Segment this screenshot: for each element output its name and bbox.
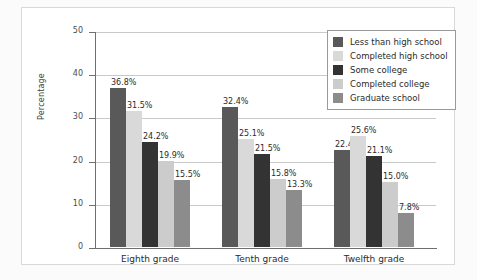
legend-label: Graduate school: [350, 94, 420, 103]
y-axis-tick-label: 0: [53, 243, 83, 251]
legend-label: Less than high school: [350, 38, 442, 47]
legend-item[interactable]: Completed high school: [333, 49, 448, 63]
y-axis-tick-label-wrap: 20: [53, 157, 83, 167]
x-axis-group-label: Tenth grade: [202, 254, 322, 264]
y-axis-tick-label: 40: [53, 70, 83, 78]
y-axis-tick-label: 20: [53, 157, 83, 165]
bar-value-label: 36.8%: [111, 79, 136, 87]
bar-value-label: 32.4%: [223, 98, 248, 106]
y-axis-line: [95, 32, 96, 249]
bar-value-label: 25.1%: [239, 130, 264, 138]
y-axis-tick-label: 30: [53, 113, 83, 121]
bar[interactable]: [334, 150, 350, 247]
legend-swatch-icon: [333, 37, 343, 47]
bar[interactable]: [158, 161, 174, 247]
bar[interactable]: [126, 111, 142, 247]
bar-value-label: 21.1%: [367, 147, 392, 155]
bar[interactable]: [382, 182, 398, 247]
bar[interactable]: [286, 190, 302, 247]
bar-value-label: 24.2%: [143, 133, 168, 141]
bar-value-label: 21.5%: [255, 145, 280, 153]
chart-frame: Percentage 01020304050 36.8%31.5%24.2%19…: [21, 7, 455, 265]
legend-swatch-icon: [333, 93, 343, 103]
x-axis-line: [95, 248, 437, 249]
gridline: [95, 118, 436, 119]
bar-value-label: 15.0%: [383, 173, 408, 181]
legend[interactable]: Less than high schoolCompleted high scho…: [327, 30, 456, 110]
bar-value-label: 15.5%: [175, 171, 200, 179]
y-axis-tick-label-wrap: 10: [53, 200, 83, 210]
y-axis-tick-label-wrap: 0: [53, 243, 83, 253]
bar[interactable]: [222, 107, 238, 247]
bar[interactable]: [142, 142, 158, 247]
x-axis-group-label: Eighth grade: [90, 254, 210, 264]
y-axis-tick-label-wrap: 50: [53, 27, 83, 37]
bar[interactable]: [366, 156, 382, 247]
legend-swatch-icon: [333, 65, 343, 75]
legend-label: Completed high school: [350, 52, 448, 61]
bar[interactable]: [254, 154, 270, 247]
y-axis-tick-label-wrap: 30: [53, 113, 83, 123]
bar[interactable]: [110, 88, 126, 247]
bar-value-label: 13.3%: [287, 181, 312, 189]
bar-value-label: 7.8%: [399, 204, 419, 212]
bar[interactable]: [238, 139, 254, 247]
x-axis-group-label: Twelfth grade: [314, 254, 434, 264]
bar[interactable]: [398, 213, 414, 247]
legend-item[interactable]: Graduate school: [333, 91, 448, 105]
legend-item[interactable]: Less than high school: [333, 35, 448, 49]
bar-value-label: 31.5%: [127, 102, 152, 110]
y-axis-tick-label: 50: [53, 27, 83, 35]
legend-label: Some college: [350, 66, 407, 75]
bar-value-label: 15.8%: [271, 170, 296, 178]
legend-swatch-icon: [333, 79, 343, 89]
bar-value-label: 25.6%: [351, 127, 376, 135]
bar[interactable]: [350, 136, 366, 247]
y-axis-tick-label: 10: [53, 200, 83, 208]
y-axis-tick-label-wrap: 40: [53, 70, 83, 80]
figure-canvas: Percentage 01020304050 36.8%31.5%24.2%19…: [0, 0, 477, 280]
legend-item[interactable]: Some college: [333, 63, 448, 77]
bar-value-label: 19.9%: [159, 152, 184, 160]
y-axis-title: Percentage: [37, 52, 46, 142]
legend-swatch-icon: [333, 51, 343, 61]
bar[interactable]: [174, 180, 190, 247]
bar[interactable]: [270, 179, 286, 247]
legend-label: Completed college: [350, 80, 430, 89]
legend-item[interactable]: Completed college: [333, 77, 448, 91]
